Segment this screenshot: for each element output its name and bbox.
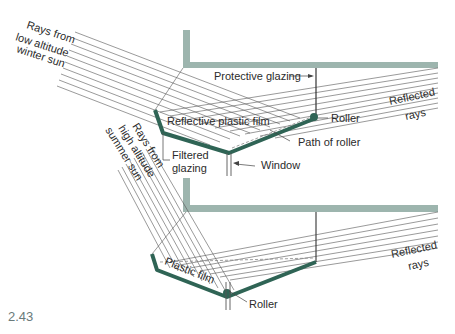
solar-reflector-diagram: Rays from low altitude winter sun Protec… bbox=[0, 0, 455, 334]
winter-incoming-rays bbox=[57, 32, 300, 145]
path-of-roller-label: Path of roller bbox=[298, 136, 361, 148]
bottom-diagram: Rays from high altitude summer sun Plast… bbox=[103, 121, 438, 310]
filtered-glazing-line bbox=[163, 133, 170, 160]
roller-label: Roller bbox=[249, 298, 278, 310]
reflected-rays-label: Reflected bbox=[390, 239, 438, 260]
reflected-rays-label-2: rays bbox=[407, 256, 430, 272]
arrowhead-icon bbox=[233, 161, 239, 166]
roller-icon bbox=[310, 113, 318, 121]
top-diagram: Rays from low altitude winter sun Protec… bbox=[14, 18, 438, 176]
figure-number: 2.43 bbox=[8, 309, 33, 324]
reflected-rays-label: Reflected bbox=[388, 86, 436, 107]
filtered-glazing-label: Filtered bbox=[172, 149, 209, 161]
roller-label: Roller bbox=[331, 112, 360, 124]
filtered-glazing-label-2: glazing bbox=[172, 162, 207, 174]
top-roof-slab bbox=[183, 62, 438, 68]
arrowhead-icon bbox=[308, 74, 314, 78]
reflective-film-label: Reflective plastic film bbox=[167, 115, 270, 127]
bottom-roof-slab bbox=[183, 205, 438, 212]
window-label: Window bbox=[261, 159, 300, 171]
protective-glazing-label: Protective glazing bbox=[214, 70, 301, 82]
reflected-rays-label-2: rays bbox=[404, 106, 427, 122]
